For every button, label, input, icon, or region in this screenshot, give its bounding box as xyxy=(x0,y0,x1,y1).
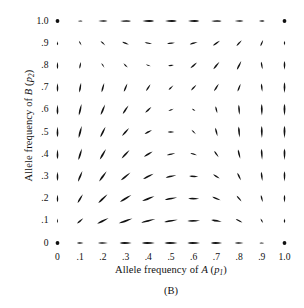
field-arrow xyxy=(190,63,197,69)
field-arrow xyxy=(123,106,129,114)
field-arrow xyxy=(78,194,83,203)
field-arrow xyxy=(187,242,200,244)
field-arrow xyxy=(261,126,263,138)
field-arrow xyxy=(57,172,59,181)
field-arrow xyxy=(213,62,219,69)
fixed-point-marker xyxy=(56,241,60,245)
field-arrow xyxy=(192,130,196,134)
field-arrow xyxy=(259,242,264,243)
field-arrow xyxy=(101,63,104,68)
field-arrow xyxy=(165,197,177,200)
field-arrow xyxy=(57,105,59,115)
field-arrow xyxy=(101,105,105,116)
field-arrow xyxy=(145,107,151,113)
field-arrow xyxy=(57,62,58,69)
field-arrow xyxy=(164,220,178,223)
field-arrow xyxy=(238,84,241,92)
field-arrow xyxy=(284,148,286,159)
field-arrow xyxy=(143,174,154,179)
field-arrow xyxy=(167,42,175,44)
field-arrow xyxy=(261,104,263,115)
field-arrow xyxy=(211,242,222,244)
field-arrow xyxy=(235,20,244,22)
field-arrow xyxy=(284,218,285,223)
field-arrow xyxy=(211,20,222,22)
field-arrow xyxy=(122,42,129,45)
field-arrow xyxy=(261,83,263,91)
field-arrow xyxy=(215,128,217,136)
field-arrow xyxy=(190,153,197,155)
field-arrow xyxy=(146,84,150,91)
field-arrow xyxy=(123,63,127,67)
field-arrow xyxy=(97,218,108,224)
field-arrow xyxy=(188,198,199,200)
field-arrow xyxy=(168,131,175,132)
field-arrow xyxy=(213,174,220,178)
field-arrow xyxy=(214,151,218,157)
field-arrow xyxy=(259,20,265,21)
field-arrow xyxy=(98,20,107,22)
field-arrow xyxy=(99,171,106,181)
field-arrow xyxy=(164,242,177,244)
field-arrow xyxy=(79,83,81,93)
fixed-point-marker xyxy=(56,19,60,23)
field-arrow xyxy=(79,104,82,115)
field-arrow xyxy=(238,105,240,115)
field-arrow xyxy=(124,83,128,91)
field-arrow xyxy=(192,109,196,111)
field-arrow xyxy=(165,20,177,22)
field-arrow xyxy=(284,171,286,181)
field-arrow xyxy=(145,42,152,44)
field-arrow xyxy=(212,197,220,201)
field-arrow xyxy=(57,195,58,202)
field-arrow xyxy=(166,175,177,177)
field-arrow xyxy=(261,195,263,202)
field-arrow xyxy=(237,173,241,180)
field-arrow xyxy=(120,195,131,202)
field-arrow xyxy=(142,242,155,244)
field-arrow xyxy=(100,41,105,45)
field-arrow xyxy=(214,84,219,91)
field-arrow xyxy=(284,126,286,138)
field-arrow xyxy=(101,83,104,92)
fixed-point-marker xyxy=(283,241,287,245)
field-arrow xyxy=(145,130,152,134)
field-arrow xyxy=(187,220,200,222)
field-arrow xyxy=(284,41,285,46)
field-arrow xyxy=(79,41,82,46)
field-arrow xyxy=(120,20,131,22)
field-arrow xyxy=(98,242,108,244)
field-arrow xyxy=(100,127,105,138)
field-arrow xyxy=(168,109,173,111)
field-arrow xyxy=(261,149,263,160)
field-arrow xyxy=(122,150,130,158)
field-arrow xyxy=(235,242,244,244)
field-arrow xyxy=(284,104,286,116)
field-arrow xyxy=(79,62,81,69)
field-arrow xyxy=(57,41,58,45)
field-arrow xyxy=(78,20,83,21)
field-arrow xyxy=(142,196,154,201)
field-arrow xyxy=(284,61,286,70)
field-arrow xyxy=(77,218,83,223)
field-arrow xyxy=(190,42,198,44)
field-arrow xyxy=(78,171,82,182)
quiver-plot xyxy=(0,0,304,308)
fixed-point-marker xyxy=(283,19,287,23)
field-arrow xyxy=(57,83,59,92)
field-arrow xyxy=(78,148,82,159)
field-arrow xyxy=(215,106,217,113)
field-arrow xyxy=(238,150,240,159)
field-arrow xyxy=(284,195,285,203)
field-arrow xyxy=(260,219,263,223)
field-arrow xyxy=(189,175,198,177)
field-arrow xyxy=(57,149,59,159)
field-arrow xyxy=(236,219,243,223)
field-arrow xyxy=(122,128,129,136)
field-arrow xyxy=(191,85,196,91)
field-arrow xyxy=(57,127,59,138)
field-arrow xyxy=(211,220,222,222)
field-arrow xyxy=(237,196,242,202)
field-arrow xyxy=(79,126,82,138)
field-arrow xyxy=(144,152,153,157)
